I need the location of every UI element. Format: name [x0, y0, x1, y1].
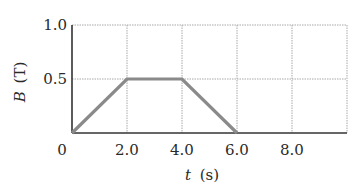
x-tick-labels: 02.04.06.08.0: [57, 141, 304, 159]
x-axis-unit: (s): [200, 166, 219, 184]
x-tick-label: 8.0: [280, 141, 304, 159]
y-axis-title: B (T): [11, 62, 29, 104]
x-tick-label: 4.0: [170, 141, 194, 159]
y-tick-label: 0.5: [43, 70, 67, 88]
y-axis-variable: B: [11, 91, 29, 103]
y-tick-labels: 0.51.0: [43, 16, 67, 88]
grid-lines: [72, 25, 347, 133]
chart: 0.51.0 02.04.06.08.0 t (s) B (T): [0, 0, 355, 190]
x-axis-title: t (s): [185, 166, 219, 184]
data-series: [72, 79, 237, 133]
y-tick-label: 1.0: [43, 16, 67, 34]
y-axis-unit: (T): [11, 62, 29, 84]
data-line: [72, 79, 237, 133]
x-axis-variable: t: [185, 166, 192, 184]
x-tick-label: 6.0: [225, 141, 249, 159]
x-tick-label: 2.0: [115, 141, 139, 159]
x-tick-label: 0: [57, 141, 67, 159]
